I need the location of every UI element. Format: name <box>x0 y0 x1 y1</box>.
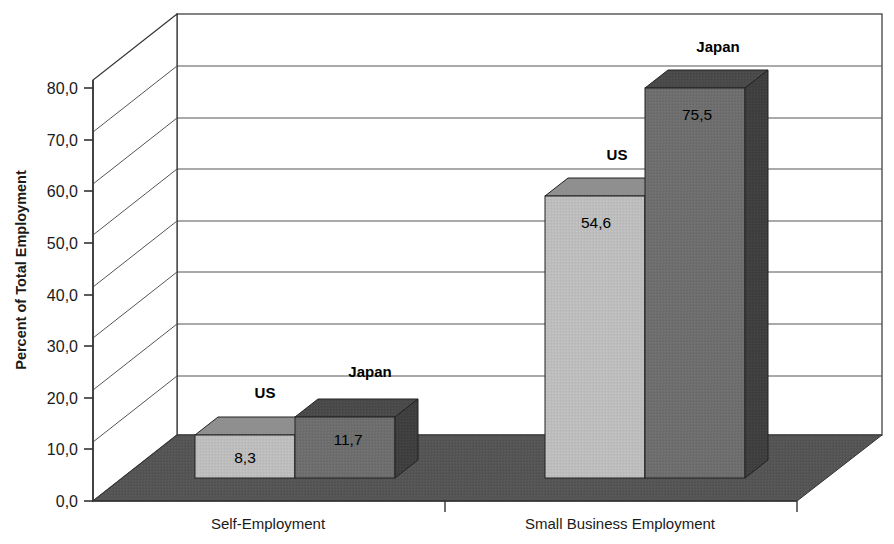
bar-value-label: 54,6 <box>581 214 611 231</box>
y-tick-label-70: 70,0 <box>47 132 78 149</box>
y-tick-label-60: 60,0 <box>47 183 78 200</box>
series-label-us-self-employment: US <box>255 384 276 401</box>
y-tick-label-40: 40,0 <box>47 287 78 304</box>
bar-value-label: 75,5 <box>682 106 712 123</box>
chart-container: 80,0 70,0 60,0 50,0 40,0 30,0 20,0 10,0 … <box>0 0 894 544</box>
side-wall-surface <box>93 14 177 501</box>
x-category-label-small-business: Small Business Employment <box>525 515 716 532</box>
y-axis-title: Percent of Total Employment <box>13 170 29 370</box>
plot-side-wall <box>93 14 177 501</box>
bar-chart-3d: 80,0 70,0 60,0 50,0 40,0 30,0 20,0 10,0 … <box>0 0 894 544</box>
bar-value-label: 8,3 <box>234 449 256 466</box>
y-tick-label-30: 30,0 <box>47 338 78 355</box>
y-tick-label-80: 80,0 <box>47 80 78 97</box>
bar-value-label: 11,7 <box>333 431 362 448</box>
series-label-us-small-business: US <box>607 146 628 163</box>
plot-back-wall <box>177 14 882 435</box>
bar-japan-self-employment[interactable]: 11,7 <box>295 399 418 478</box>
y-tick-label-0: 0,0 <box>56 493 78 510</box>
y-tick-label-50: 50,0 <box>47 235 78 252</box>
bar-japan-small-business[interactable]: 75,5 <box>645 70 768 478</box>
bar-front-face <box>545 196 645 478</box>
y-tick-label-20: 20,0 <box>47 390 78 407</box>
series-label-japan-small-business: Japan <box>696 38 739 55</box>
y-tick-label-10: 10,0 <box>47 441 78 458</box>
y-axis: 80,0 70,0 60,0 50,0 40,0 30,0 20,0 10,0 … <box>47 80 93 510</box>
bar-side-face <box>745 70 768 478</box>
x-axis: Self-Employment Small Business Employmen… <box>93 501 797 532</box>
x-category-label-self-employment: Self-Employment <box>211 515 326 532</box>
bar-front-face <box>645 88 745 478</box>
series-label-japan-self-employment: Japan <box>348 363 391 380</box>
back-wall-surface <box>177 14 882 435</box>
